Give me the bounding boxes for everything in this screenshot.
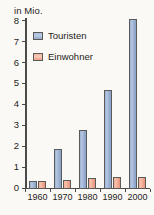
- y-axis-line: [25, 18, 27, 189]
- legend-item-einwohner: Einwohner: [33, 50, 93, 64]
- legend-label-einwohner: Einwohner: [48, 52, 93, 62]
- bar-einwohner-1960: [38, 181, 46, 188]
- x-axis-tick: [25, 189, 26, 192]
- bar-einwohner-1990: [113, 177, 121, 189]
- x-axis-tick: [50, 189, 51, 192]
- bar-chart: in Mio. 012345678 19601970198019902000 T…: [0, 0, 154, 215]
- y-axis-tick: 2: [22, 146, 26, 147]
- y-axis-tick-label: 2: [14, 142, 19, 152]
- chart-legend: TouristenEinwohner: [33, 29, 93, 71]
- x-axis-label-1990: 1990: [102, 193, 122, 202]
- bar-touristen-2000: [129, 19, 137, 189]
- x-axis-tick: [150, 189, 151, 192]
- y-axis-tick-label: 0: [14, 183, 19, 193]
- bar-touristen-1980: [79, 130, 87, 189]
- y-axis-tick: 1: [22, 167, 26, 168]
- bar-einwohner-1970: [63, 180, 71, 188]
- bar-touristen-1990: [104, 90, 112, 188]
- y-axis-tick-label: 8: [14, 16, 19, 26]
- x-axis-tick: [75, 189, 76, 192]
- bar-touristen-1960: [29, 181, 37, 188]
- x-axis-label-1980: 1980: [77, 193, 97, 202]
- legend-swatch-touristen: [33, 32, 43, 40]
- x-axis-tick: [100, 189, 101, 192]
- y-axis-tick-label: 7: [14, 37, 19, 47]
- legend-label-touristen: Touristen: [48, 31, 87, 41]
- y-axis-tick: 4: [22, 104, 26, 105]
- bar-einwohner-1980: [88, 178, 96, 189]
- legend-item-touristen: Touristen: [33, 29, 93, 43]
- bar-einwohner-2000: [138, 177, 146, 189]
- legend-swatch-einwohner: [33, 53, 43, 61]
- x-axis-label-1970: 1970: [52, 193, 72, 202]
- y-axis-tick: 5: [22, 83, 26, 84]
- y-axis-tick-label: 6: [14, 58, 19, 68]
- y-axis-tick: 3: [22, 125, 26, 126]
- y-axis-tick: 6: [22, 62, 26, 63]
- x-axis-tick: [125, 189, 126, 192]
- y-axis-tick-label: 5: [14, 79, 19, 89]
- y-axis-tick: 7: [22, 41, 26, 42]
- y-axis-tick-label: 1: [14, 162, 19, 172]
- x-axis-label-2000: 2000: [127, 193, 147, 202]
- bar-touristen-1970: [54, 149, 62, 189]
- y-axis-tick: 8: [22, 20, 26, 21]
- x-axis-label-1960: 1960: [27, 193, 47, 202]
- y-axis-tick-label: 3: [14, 121, 19, 131]
- y-axis-tick-label: 4: [14, 100, 19, 110]
